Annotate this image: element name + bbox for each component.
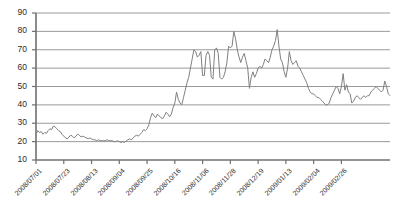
y-tick-label: 30 bbox=[5, 117, 27, 127]
chart-canvas bbox=[0, 0, 397, 218]
y-tick-label: 50 bbox=[5, 81, 27, 91]
y-tick-label: 20 bbox=[5, 136, 27, 146]
y-tick-label: 80 bbox=[5, 25, 27, 35]
y-tick-label: 10 bbox=[5, 154, 27, 164]
y-tick-label: 70 bbox=[5, 44, 27, 54]
line-chart: 102030405060708090 2008/07/012008/07/232… bbox=[0, 0, 397, 218]
y-tick-label: 90 bbox=[5, 7, 27, 17]
y-tick-label: 40 bbox=[5, 99, 27, 109]
y-tick-label: 60 bbox=[5, 62, 27, 72]
